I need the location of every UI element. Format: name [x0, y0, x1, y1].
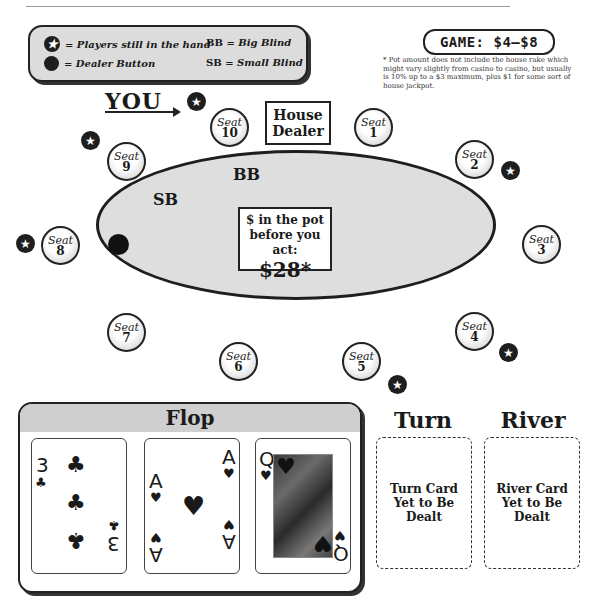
seat-7[interactable]: Seat7 — [107, 313, 146, 352]
card-rank: A — [149, 471, 163, 491]
seat-2[interactable]: Seat2 — [455, 140, 494, 179]
seat-8[interactable]: Seat8 — [41, 226, 80, 265]
legend-bb: BB = Big Blind — [206, 37, 291, 48]
club-icon: ♣ — [108, 519, 120, 532]
seat-number: 7 — [122, 333, 130, 344]
river-placeholder: River Card Yet to Be Dealt — [493, 482, 571, 524]
legend-box: ★ = Players still in the hand = Dealer B… — [28, 25, 308, 82]
club-icon: ♣ — [66, 454, 86, 476]
flop-panel: Flop 3 ♣ ♣ ♣ ♣ 3 ♣ A ♥ A ♥ ♥ ♥ A ♥ A Q ♥… — [18, 402, 362, 593]
pot-amount: $28* — [240, 258, 330, 282]
dealer-label: House — [272, 107, 324, 123]
seat-10[interactable]: Seat10 — [210, 108, 249, 147]
card-queen-hearts: Q ♥ ♥ ♥ ♥ Q — [255, 438, 351, 574]
club-icon: ♣ — [66, 492, 86, 514]
pot-box: $ in the pot before you act: $28* — [238, 207, 332, 271]
legend-label: = Players still in the hand — [65, 39, 211, 50]
big-blind-marker: BB — [233, 165, 260, 184]
turn-title: Turn — [375, 407, 471, 433]
legend-label: = Big Blind — [223, 37, 291, 48]
star-icon: ★ — [499, 343, 518, 362]
seat-number: 1 — [369, 128, 377, 139]
seat-3[interactable]: Seat3 — [522, 225, 561, 264]
heart-icon: ♥ — [150, 491, 162, 504]
card-rank: 3 — [107, 534, 120, 554]
star-icon: ★ — [16, 234, 35, 253]
seat-number: 10 — [221, 128, 238, 139]
seat-4[interactable]: Seat4 — [455, 312, 494, 351]
seat-1[interactable]: Seat1 — [354, 108, 393, 147]
star-icon: ★ — [187, 92, 206, 111]
dealer-button-icon — [108, 234, 129, 255]
heart-icon: ♥ — [313, 532, 333, 554]
legend-label: = Dealer Button — [64, 58, 155, 69]
flop-title: Flop — [20, 404, 360, 432]
club-icon: ♣ — [66, 529, 86, 551]
game-badge: GAME: $4–$8 — [423, 29, 555, 55]
star-icon: ★ — [501, 161, 520, 180]
seat-number: 5 — [357, 362, 365, 373]
card-ace-hearts: A ♥ A ♥ ♥ ♥ A ♥ A — [144, 438, 240, 574]
seat-9[interactable]: Seat9 — [107, 142, 146, 181]
card-rank: 3 — [36, 455, 49, 475]
star-icon: ★ — [44, 36, 60, 52]
club-icon: ♣ — [35, 476, 47, 489]
seat-number: 4 — [470, 332, 478, 343]
bb-abbr: BB — [206, 37, 223, 48]
turn-placeholder: Turn Card Yet to Be Dealt — [385, 482, 463, 524]
turn-card-slot: Turn Card Yet to Be Dealt — [376, 437, 472, 569]
dealer-button-icon — [44, 56, 59, 71]
river-title: River — [485, 407, 581, 433]
arrow-right-icon — [105, 111, 175, 113]
house-dealer: HouseDealer — [265, 101, 331, 145]
card-rank: Q — [333, 544, 349, 564]
legend-sb: SB = Small Blind — [206, 57, 303, 68]
heart-icon: ♥ — [182, 495, 205, 517]
seat-number: 2 — [470, 160, 478, 171]
legend-label: = Small Blind — [222, 57, 303, 68]
seat-number: 8 — [56, 246, 64, 257]
pot-label: $ in the pot — [240, 213, 330, 228]
heart-icon: ♥ — [276, 456, 296, 478]
card-rank: A — [149, 545, 163, 565]
pot-label: before you act: — [240, 228, 330, 258]
star-icon: ★ — [81, 131, 100, 150]
seat-number: 3 — [537, 245, 545, 256]
seat-6[interactable]: Seat6 — [219, 342, 258, 381]
seat-5[interactable]: Seat5 — [342, 342, 381, 381]
legend-dealer-button: = Dealer Button — [44, 56, 155, 71]
heart-icon: ♥ — [260, 469, 272, 482]
star-icon: ★ — [388, 375, 407, 394]
dealer-label: Dealer — [272, 123, 324, 139]
card-rank: A — [222, 447, 236, 467]
heart-icon: ♥ — [223, 467, 235, 480]
heart-icon: ♥ — [334, 529, 346, 542]
river-card-slot: River Card Yet to Be Dealt — [484, 437, 580, 569]
card-3-clubs: 3 ♣ ♣ ♣ ♣ 3 ♣ — [31, 438, 127, 574]
seat-number: 6 — [234, 362, 242, 373]
seat-number: 9 — [122, 162, 130, 173]
divider — [26, 6, 510, 7]
footnote: * Pot amount does not include the house … — [383, 56, 579, 90]
small-blind-marker: SB — [153, 190, 178, 209]
sb-abbr: SB — [206, 57, 222, 68]
card-rank: A — [222, 532, 236, 552]
legend-players-in-hand: ★ = Players still in the hand — [44, 36, 211, 52]
